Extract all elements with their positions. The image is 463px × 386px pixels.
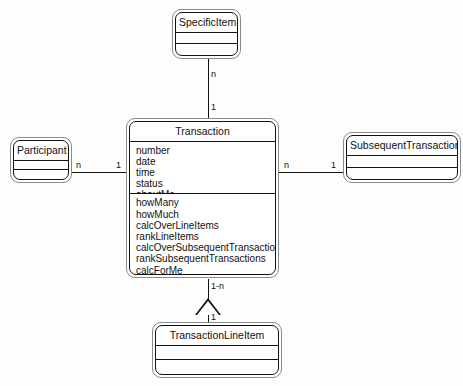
operation-row: calcOverLineItems <box>136 220 270 231</box>
class-name-transaction: Transaction <box>130 122 275 142</box>
class-box-specific-item[interactable]: SpecificItem <box>172 9 241 59</box>
connector-participant-transaction <box>72 172 127 173</box>
class-operations-specific-item <box>176 44 237 55</box>
connector-transaction-line-item-upper <box>208 279 209 299</box>
uml-class-diagram-canvas: SpecificItem n 1 Participant n 1 Transac… <box>0 0 463 386</box>
class-box-inner: Participant <box>13 140 69 180</box>
operation-row: howMuch <box>136 209 270 220</box>
class-attributes-participant <box>14 161 68 171</box>
class-attributes-transaction-line-item <box>156 346 278 361</box>
attribute-row: time <box>136 167 270 178</box>
class-box-inner: TransactionLineItem <box>155 325 279 375</box>
class-operations-transaction-line-item <box>156 360 278 374</box>
operation-row: calcOverSubsequentTransactions <box>136 242 270 253</box>
class-box-inner: SubsequentTransaction <box>346 135 458 180</box>
multiplicity-participant-side: n <box>76 161 81 170</box>
attribute-row: status <box>136 178 270 189</box>
class-attributes-transaction: number date time status aboutMe <box>130 142 275 195</box>
class-name-specific-item: SpecificItem <box>176 13 237 33</box>
class-name-subsequent-transaction: SubsequentTransaction <box>347 136 457 156</box>
class-box-participant[interactable]: Participant <box>10 137 72 183</box>
attribute-row: number <box>136 145 270 156</box>
multiplicity-line-item-side: 1 <box>211 313 216 322</box>
class-box-subsequent-transaction[interactable]: SubsequentTransaction <box>343 132 461 183</box>
class-operations-subsequent-transaction <box>347 168 457 179</box>
multiplicity-transaction-side-top: 1 <box>211 103 216 112</box>
operation-row: rankSubsequentTransactions <box>136 253 270 264</box>
multiplicity-transaction-side-left: 1 <box>116 161 121 170</box>
class-operations-transaction: howMany howMuch calcOverLineItems rankLi… <box>130 194 275 274</box>
class-name-participant: Participant <box>14 141 68 161</box>
class-box-transaction[interactable]: Transaction number date time status abou… <box>126 118 279 278</box>
operation-row: rankLineItems <box>136 231 270 242</box>
multiplicity-transaction-side-right: n <box>284 161 289 170</box>
connector-specific-item-transaction <box>208 59 209 118</box>
operation-row: howMany <box>136 197 270 208</box>
multiplicity-subsequent-side: 1 <box>331 161 336 170</box>
class-name-transaction-line-item: TransactionLineItem <box>156 326 278 346</box>
operation-row: calcForMe <box>136 265 270 274</box>
multiplicity-specific-item-side: n <box>211 70 216 79</box>
class-attributes-subsequent-transaction <box>347 156 457 168</box>
multiplicity-line-item-transaction-side: 1-n <box>211 282 224 291</box>
class-box-inner: Transaction number date time status abou… <box>129 121 276 275</box>
class-box-transaction-line-item[interactable]: TransactionLineItem <box>152 322 282 378</box>
class-box-inner: SpecificItem <box>175 12 238 56</box>
class-attributes-specific-item <box>176 33 237 45</box>
connector-transaction-subsequent <box>279 172 343 173</box>
attribute-row: date <box>136 156 270 167</box>
class-operations-participant <box>14 170 68 179</box>
